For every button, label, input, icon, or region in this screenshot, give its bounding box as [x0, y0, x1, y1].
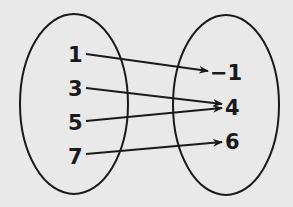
mapping-arrow [86, 108, 222, 121]
domain-value: 7 [68, 145, 83, 169]
mapping-arrow [86, 88, 222, 104]
range-value: −1 [210, 61, 242, 85]
domain-value: 5 [68, 111, 83, 135]
mapping-arrow [86, 142, 222, 154]
domain-value: 3 [68, 77, 83, 101]
domain-value: 1 [68, 43, 83, 67]
mapping-arrow [86, 54, 208, 71]
mapping-diagram: 1 3 5 7 −1 4 6 [0, 0, 293, 207]
range-value: 4 [225, 96, 240, 120]
range-value: 6 [225, 130, 240, 154]
